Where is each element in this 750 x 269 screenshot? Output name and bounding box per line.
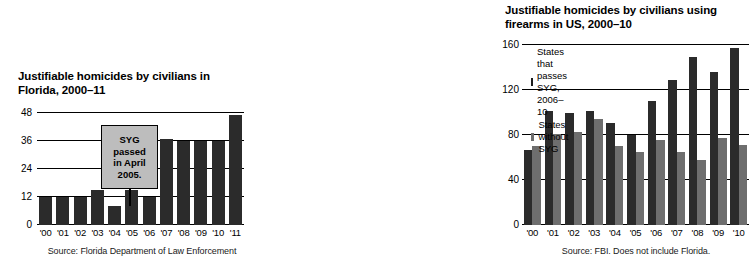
x-tick-label: '04 xyxy=(605,227,626,238)
bar-florida xyxy=(229,115,242,225)
y-tick-label-florida-36: 36 xyxy=(12,136,32,146)
x-axis-labels-us: '00'01'02'03'04'05'06'07'08'09'10 xyxy=(522,227,749,238)
bar-slot xyxy=(666,45,687,225)
bar-syg-states xyxy=(689,57,697,225)
x-axis-labels-florida: '00'01'02'03'04'05'06'07'08'09'10'11 xyxy=(37,227,244,238)
x-tick-label: '00 xyxy=(37,227,54,238)
bar-florida xyxy=(177,141,190,225)
bar-syg-states xyxy=(627,135,635,225)
callout-line-4: 2005. xyxy=(118,169,142,181)
x-tick-label: '07 xyxy=(158,227,175,238)
y-tick-label-florida-24: 24 xyxy=(12,164,32,174)
bar-slot xyxy=(584,45,605,225)
bar-slot xyxy=(158,113,175,225)
bar-slot xyxy=(646,45,667,225)
bar-syg-states xyxy=(668,80,676,225)
x-tick-label: '06 xyxy=(646,227,667,238)
callout-pointer-line xyxy=(129,189,131,206)
bar-slot xyxy=(37,113,54,225)
bar-slot xyxy=(605,45,626,225)
bar-slot xyxy=(625,45,646,225)
bar-slot xyxy=(687,45,708,225)
y-tick-label-florida-48: 48 xyxy=(12,108,32,118)
bar-non-syg-states xyxy=(594,119,602,225)
x-tick-label: '09 xyxy=(192,227,209,238)
bar-slot xyxy=(72,113,89,225)
legend-label-syg-states: States that passes SYG, 2006–10 xyxy=(537,46,573,118)
y-tick-label-us-160: 160 xyxy=(497,40,519,50)
legend-swatch-dark-icon xyxy=(531,78,533,86)
x-tick-label: '04 xyxy=(106,227,123,238)
bar-florida xyxy=(39,197,52,225)
bar-non-syg-states xyxy=(697,160,705,225)
bar-slot xyxy=(227,113,244,225)
bar-non-syg-states xyxy=(718,138,726,225)
x-tick-label: '06 xyxy=(141,227,158,238)
chart-panel-florida: Justifiable homicides by civilians in Fl… xyxy=(0,0,250,269)
bar-florida xyxy=(74,197,87,225)
bar-syg-states xyxy=(524,150,532,225)
x-tick-label: '09 xyxy=(708,227,729,238)
bar-syg-states xyxy=(648,101,656,225)
x-tick-label: '07 xyxy=(666,227,687,238)
y-tick-label-florida-12: 12 xyxy=(12,192,32,202)
bar-syg-states xyxy=(730,48,738,225)
x-tick-label: '01 xyxy=(543,227,564,238)
x-tick-label: '02 xyxy=(563,227,584,238)
x-tick-label: '03 xyxy=(584,227,605,238)
callout-line-3: in April xyxy=(113,157,145,169)
callout-line-2: passed xyxy=(113,146,146,158)
legend-item-syg-states: States that passes SYG, 2006–10 xyxy=(531,46,573,118)
x-tick-label: '03 xyxy=(89,227,106,238)
bar-slot xyxy=(175,113,192,225)
annotation-callout-syg: SYG passed in April 2005. xyxy=(101,125,158,189)
bar-syg-states xyxy=(586,111,594,225)
x-tick-label: '00 xyxy=(522,227,543,238)
chart-title-us: Justifiable homicides by civilians using… xyxy=(505,4,749,31)
legend-swatch-gray-icon xyxy=(531,133,534,141)
bar-florida xyxy=(212,141,225,225)
bar-non-syg-states xyxy=(574,132,582,225)
x-tick-label: '05 xyxy=(123,227,140,238)
legend-item-non-syg-states: States without SYG xyxy=(531,119,573,155)
bar-florida xyxy=(56,197,69,225)
chart-panel-us-firearms: Justifiable homicides by civilians using… xyxy=(250,0,503,269)
bar-non-syg-states xyxy=(677,152,685,225)
x-tick-label: '08 xyxy=(175,227,192,238)
chart-title-us-line2: firearms in US, 2000–10 xyxy=(505,18,749,32)
bar-non-syg-states xyxy=(739,145,747,225)
y-tick-label-us-40: 40 xyxy=(497,175,519,185)
bar-syg-states xyxy=(606,123,614,225)
x-tick-label: '05 xyxy=(625,227,646,238)
y-tick-label-us-0: 0 xyxy=(497,220,519,230)
bar-syg-states xyxy=(710,72,718,225)
bar-slot xyxy=(54,113,71,225)
source-note-us: Source: FBI. Does not include Florida. xyxy=(522,246,750,256)
chart-title-us-line1: Justifiable homicides by civilians using xyxy=(505,4,749,18)
x-tick-label: '10 xyxy=(210,227,227,238)
bar-florida xyxy=(108,206,121,225)
legend-label-non-syg-states: States without SYG xyxy=(538,119,573,155)
bar-florida xyxy=(194,141,207,225)
source-note-florida: Source: Florida Department of Law Enforc… xyxy=(37,246,247,256)
bar-slot xyxy=(192,113,209,225)
bar-non-syg-states xyxy=(636,152,644,225)
x-tick-label: '02 xyxy=(72,227,89,238)
y-tick-label-us-120: 120 xyxy=(497,85,519,95)
chart-title-florida-line1: Justifiable homicides by civilians in xyxy=(18,70,244,84)
bar-non-syg-states xyxy=(532,146,540,225)
bar-non-syg-states xyxy=(615,146,623,225)
bar-slot xyxy=(728,45,749,225)
y-tick-label-us-80: 80 xyxy=(497,130,519,140)
bar-florida xyxy=(91,190,104,225)
legend-us: States that passes SYG, 2006–10 States w… xyxy=(531,46,573,156)
y-tick-label-florida-0: 0 xyxy=(12,220,32,230)
x-tick-label: '10 xyxy=(728,227,749,238)
chart-title-florida-line2: Florida, 2000–11 xyxy=(18,84,244,98)
bar-non-syg-states xyxy=(656,140,664,226)
chart-title-florida: Justifiable homicides by civilians in Fl… xyxy=(18,70,244,97)
bar-florida xyxy=(160,139,173,225)
bar-florida xyxy=(143,197,156,225)
x-tick-label: '11 xyxy=(227,227,244,238)
